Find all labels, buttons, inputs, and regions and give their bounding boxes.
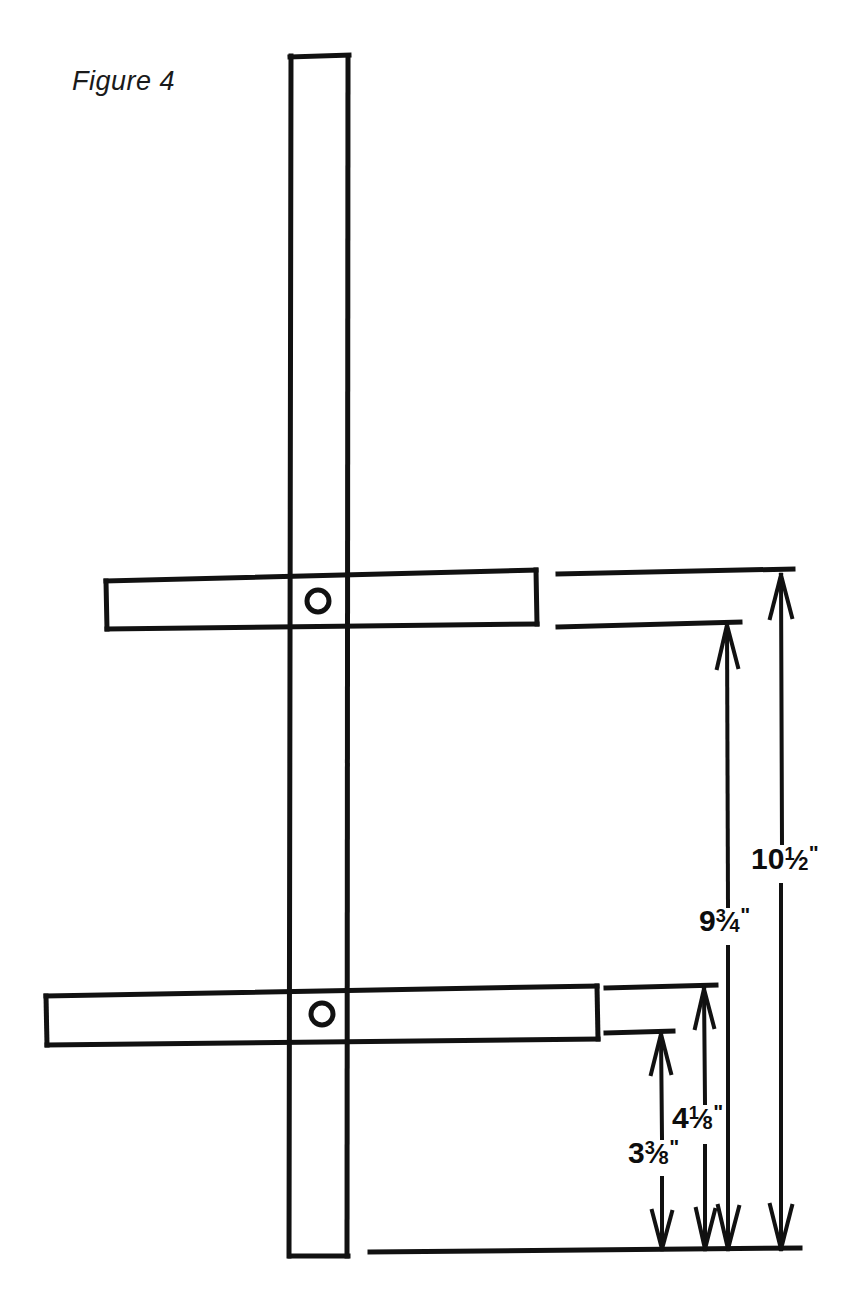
inch-mark-9-three-quarters: " [740, 903, 749, 926]
extension-line-lower-top [606, 985, 716, 988]
inch-mark-4-one-eighth: " [713, 1100, 722, 1123]
dimension-whole-4-one-eighth: 4 [672, 1101, 689, 1134]
dimension-label-3-three-eighths: 33⁄8" [628, 1136, 678, 1168]
dimension-fraction-10-half: 1⁄2 [784, 844, 807, 874]
inch-mark-3-three-eighths: " [669, 1135, 678, 1158]
dimension-whole-9-three-quarters: 9 [699, 904, 716, 937]
lower-crossbar-hole [311, 1003, 333, 1025]
dimension-fraction-4-one-eighth: 1⁄8 [689, 1103, 712, 1133]
figure-page: Figure 4 [0, 0, 855, 1316]
inch-mark-10-half: " [809, 841, 818, 864]
dimension-whole-3-three-eighths: 3 [628, 1136, 645, 1169]
dimension-label-9-three-quarters: 93⁄4" [699, 904, 749, 936]
dimension-label-10-half: 101⁄2" [751, 842, 818, 874]
dimension-whole-10-half: 10 [751, 842, 784, 875]
baseline [370, 1248, 800, 1252]
extension-line-upper-top [558, 569, 793, 574]
dimension-label-4-one-eighth: 41⁄8" [672, 1101, 722, 1133]
vertical-post [289, 55, 349, 1256]
upper-crossbar-hole [307, 590, 329, 612]
extension-line-upper-bottom [558, 622, 740, 627]
dimension-fraction-9-three-quarters: 3⁄4 [716, 906, 739, 936]
technical-drawing-canvas [0, 0, 855, 1316]
dimension-fraction-3-three-eighths: 3⁄8 [645, 1138, 668, 1168]
dimension-line-10-half [770, 575, 792, 1249]
